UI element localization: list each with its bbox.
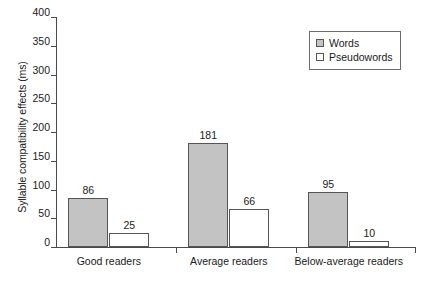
open-white-square-icon bbox=[316, 53, 324, 61]
y-axis-tick-mark bbox=[51, 132, 56, 133]
x-axis-tick-mark bbox=[296, 248, 297, 253]
y-axis-tick-mark bbox=[51, 103, 56, 104]
y-axis-tick-mark bbox=[51, 190, 56, 191]
bar-value-label: 95 bbox=[322, 179, 334, 190]
bar-pseudowords: 25 bbox=[109, 233, 149, 247]
x-axis-category-labels: Good readersAverage readersBelow-average… bbox=[56, 254, 416, 270]
y-axis-tick-mark bbox=[51, 17, 56, 18]
bar-words: 86 bbox=[68, 198, 108, 247]
y-axis-tick-mark bbox=[51, 218, 56, 219]
y-axis-tick-mark bbox=[51, 247, 56, 248]
y-axis-tick-label: 0 bbox=[18, 237, 50, 247]
y-axis-tick-label: 250 bbox=[18, 93, 50, 103]
y-axis-tick-label: 200 bbox=[18, 122, 50, 132]
bar-value-label: 25 bbox=[123, 220, 135, 231]
bar-value-label: 86 bbox=[82, 185, 94, 196]
x-axis-category-label: Average readers bbox=[190, 254, 267, 268]
legend-item-pseudowords: Pseudowords bbox=[316, 50, 393, 64]
y-axis-tick-label: 150 bbox=[18, 151, 50, 161]
x-axis-tick-mark bbox=[176, 248, 177, 253]
bar-pseudowords: 66 bbox=[229, 209, 269, 247]
bar-words: 181 bbox=[188, 143, 228, 247]
x-axis-tick-mark bbox=[415, 248, 416, 253]
bar-value-label: 66 bbox=[243, 196, 255, 207]
y-axis-tick-labels: 400350300250200150100500 bbox=[18, 12, 50, 248]
y-axis-tick-mark bbox=[51, 75, 56, 76]
y-axis-tick-label: 400 bbox=[18, 7, 50, 17]
y-axis-line bbox=[56, 17, 57, 248]
bar-pseudowords: 10 bbox=[349, 241, 389, 247]
y-axis-tick-mark bbox=[51, 161, 56, 162]
y-axis-tick-label: 350 bbox=[18, 36, 50, 46]
bar-value-label: 181 bbox=[200, 130, 218, 141]
legend-label-pseudowords: Pseudowords bbox=[329, 51, 393, 63]
y-axis-tick-label: 100 bbox=[18, 180, 50, 190]
x-axis-line bbox=[56, 247, 416, 248]
x-axis-category-label: Below-average readers bbox=[295, 254, 404, 268]
bar-words: 95 bbox=[308, 192, 348, 247]
legend: Words Pseudowords bbox=[309, 31, 401, 70]
filled-gray-square-icon bbox=[316, 39, 324, 47]
y-axis-tick-label: 300 bbox=[18, 65, 50, 75]
bar-value-label: 10 bbox=[363, 228, 375, 239]
legend-item-words: Words bbox=[316, 36, 393, 50]
x-axis-category-label: Good readers bbox=[77, 254, 141, 268]
legend-label-words: Words bbox=[329, 37, 359, 49]
y-axis-tick-mark bbox=[51, 46, 56, 47]
y-axis-tick-label: 50 bbox=[18, 208, 50, 218]
bar-chart-figure: Syllable compatibility effects (ms) 4003… bbox=[0, 0, 428, 290]
